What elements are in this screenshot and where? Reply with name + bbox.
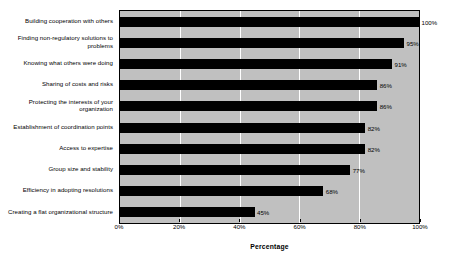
bar-row: 86% xyxy=(120,75,419,96)
bar xyxy=(120,101,377,111)
bar-value-label: 45% xyxy=(255,209,270,216)
category-label: Establishment of coordination points xyxy=(0,116,117,137)
x-tick-label: 20% xyxy=(173,223,185,230)
bar-value-label: 91% xyxy=(392,61,407,68)
bar xyxy=(120,165,350,175)
x-tick-mark xyxy=(179,219,180,222)
category-label: Sharing of costs and risks xyxy=(0,74,117,95)
bar-value-label: 68% xyxy=(323,188,338,195)
bar xyxy=(120,38,404,48)
bar-value-label: 82% xyxy=(365,145,380,152)
bar-value-label: 82% xyxy=(365,124,380,131)
x-tick-label: 0% xyxy=(115,223,124,230)
x-axis-title: Percentage xyxy=(119,243,420,250)
category-label: Protecting the interests of your organiz… xyxy=(0,95,117,116)
x-tick-label: 60% xyxy=(293,223,305,230)
bar-row: 91% xyxy=(120,53,419,74)
x-tick-mark xyxy=(420,219,421,222)
bar-value-label: 86% xyxy=(377,82,392,89)
x-tick-mark xyxy=(300,219,301,222)
bar-row: 68% xyxy=(120,181,419,202)
bar-value-label: 100% xyxy=(419,18,437,25)
category-label: Knowing what others were doing xyxy=(0,52,117,73)
x-axis-ticks: 0%20%40%60%80%100% xyxy=(119,223,420,233)
x-tick-mark xyxy=(239,219,240,222)
bar xyxy=(120,17,419,27)
x-tick-mark xyxy=(360,219,361,222)
category-label: Finding non-regulatory solutions to prob… xyxy=(0,31,117,52)
bar-value-label: 86% xyxy=(377,103,392,110)
bar-row: 100% xyxy=(120,11,419,32)
bar xyxy=(120,186,323,196)
x-tick-label: 100% xyxy=(412,223,428,230)
category-label: Efficiency in adopting resolutions xyxy=(0,180,117,201)
x-tick-label: 40% xyxy=(233,223,245,230)
category-label: Creating a flat organizational structure xyxy=(0,201,117,222)
category-axis-labels: Building cooperation with others Finding… xyxy=(0,10,117,222)
x-tick-mark xyxy=(119,219,120,222)
category-label: Building cooperation with others xyxy=(0,10,117,31)
bar-row: 82% xyxy=(120,117,419,138)
bar xyxy=(120,144,365,154)
bar-row: 77% xyxy=(120,159,419,180)
x-tick-label: 80% xyxy=(354,223,366,230)
bar-value-label: 77% xyxy=(350,167,365,174)
bar xyxy=(120,207,255,217)
category-label: Group size and stability xyxy=(0,158,117,179)
category-label: Access to expertise xyxy=(0,137,117,158)
plot-area: 100%95%91%86%86%82%82%77%68%45% xyxy=(119,10,420,224)
bar-series: 100%95%91%86%86%82%82%77%68%45% xyxy=(120,11,419,223)
bar xyxy=(120,80,377,90)
bar xyxy=(120,123,365,133)
bar-row: 45% xyxy=(120,202,419,223)
bar-value-label: 95% xyxy=(404,39,419,46)
bar-row: 95% xyxy=(120,32,419,53)
bar-row: 82% xyxy=(120,138,419,159)
bar-row: 86% xyxy=(120,96,419,117)
bar-chart: Building cooperation with others Finding… xyxy=(0,0,452,264)
bar xyxy=(120,59,392,69)
